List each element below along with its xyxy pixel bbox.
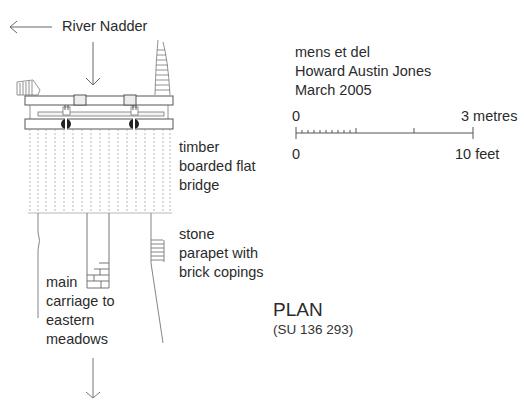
credits-line1: mens et del [295, 43, 431, 62]
river-down-arrow [86, 42, 100, 85]
scale-imperial-start: 0 [292, 145, 300, 164]
parapet-label-line: parapet with [179, 244, 264, 263]
scale-imperial-end: 10 feet [455, 145, 499, 164]
credits-block: mens et del Howard Austin Jones March 20… [295, 43, 431, 100]
parapet-label: stone parapet with brick copings [179, 225, 264, 282]
carriage-label-line: eastern [46, 311, 115, 330]
carriage-label-line: meadows [46, 330, 115, 349]
timber-boards [30, 129, 170, 213]
grid-reference: (SU 136 293) [273, 322, 353, 338]
parapet-label-line: brick copings [179, 263, 264, 282]
bridge-label-line: bridge [179, 176, 256, 195]
river-label: River Nadder [62, 17, 147, 36]
bridge-upper-beam [25, 95, 173, 105]
credits-date: March 2005 [295, 81, 431, 100]
river-direction-arrow [10, 21, 52, 33]
bridge-label-line: timber [179, 138, 256, 157]
credits-author: Howard Austin Jones [295, 62, 431, 81]
carriage-label-line: carriage to [46, 292, 115, 311]
left-road-edge [38, 213, 40, 318]
scale-metric-end: 3 metres [461, 107, 517, 126]
parapet-label-line: stone [179, 225, 264, 244]
bridge-mid-section [30, 105, 168, 120]
carriage-down-arrow [86, 358, 100, 398]
left-bank-hatch [17, 80, 40, 95]
plan-title: PLAN [273, 299, 323, 321]
carriage-label: main carriage to eastern meadows [46, 273, 115, 349]
bridge-lower-beam [25, 119, 173, 129]
bridge-label-line: boarded flat [179, 157, 256, 176]
scale-metric-start: 0 [292, 107, 300, 126]
right-bank-hatch [155, 40, 170, 95]
right-parapet [151, 213, 164, 343]
scale-bar [296, 127, 473, 139]
carriage-label-line: main [46, 273, 115, 292]
bridge-label: timber boarded flat bridge [179, 138, 256, 195]
